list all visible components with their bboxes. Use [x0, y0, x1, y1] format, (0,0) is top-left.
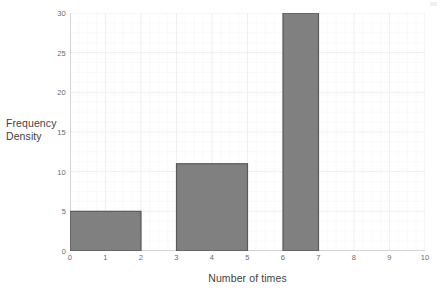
bar-3-5: [177, 164, 248, 251]
y-tick-label: 10: [42, 167, 66, 176]
x-tick-label: 1: [96, 253, 116, 262]
bars-layer: [70, 13, 425, 251]
x-tick-label: 10: [415, 253, 435, 262]
y-tick-label: 25: [42, 48, 66, 57]
histogram-chart: Frequency Density 051015202530 012345678…: [0, 0, 445, 294]
y-axis-tick-labels: 051015202530: [38, 13, 66, 251]
x-tick-label: 5: [238, 253, 258, 262]
x-tick-label: 4: [202, 253, 222, 262]
bar-6-7: [283, 13, 319, 251]
y-tick-label: 5: [42, 207, 66, 216]
x-axis-tick-labels: 012345678910: [70, 253, 425, 267]
bar-0-2: [70, 211, 141, 251]
x-tick-label: 6: [273, 253, 293, 262]
scan-artifact: [430, 2, 437, 6]
y-tick-label: 15: [42, 128, 66, 137]
x-tick-label: 2: [131, 253, 151, 262]
y-tick-label: 30: [42, 9, 66, 18]
x-tick-label: 8: [344, 253, 364, 262]
x-axis-title: Number of times: [70, 272, 425, 284]
y-tick-label: 20: [42, 88, 66, 97]
x-tick-label: 0: [60, 253, 80, 262]
x-tick-label: 3: [167, 253, 187, 262]
plot-area: [70, 13, 425, 251]
x-tick-label: 9: [380, 253, 400, 262]
x-tick-label: 7: [309, 253, 329, 262]
